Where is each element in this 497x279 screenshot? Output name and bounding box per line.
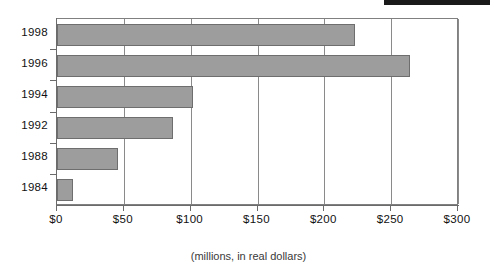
- y-tick-mark: [50, 174, 56, 175]
- gridline-150: [258, 19, 259, 204]
- x-tick-mark: [257, 205, 258, 211]
- bar-row: [57, 179, 459, 201]
- bar-row: [57, 148, 459, 170]
- x-tick-label-50: $50: [93, 213, 153, 225]
- y-tick-mark: [50, 143, 56, 144]
- bar-1992[interactable]: [57, 117, 173, 139]
- gridline-200: [324, 19, 325, 204]
- y-tick-label-1988: 1988: [4, 150, 48, 162]
- bar-row: [57, 86, 459, 108]
- x-tick-mark: [56, 205, 57, 211]
- horizontal-bar-chart: 199819961994199219881984 (millions, in r…: [0, 0, 497, 279]
- y-axis-tick-labels: 199819961994199219881984: [0, 0, 48, 279]
- x-tick-mark: [190, 205, 191, 211]
- bar-row: [57, 55, 459, 77]
- x-tick-label-100: $100: [160, 213, 220, 225]
- gridline-250: [391, 19, 392, 204]
- x-axis-line: [56, 205, 459, 206]
- x-tick-label-300: $300: [427, 213, 487, 225]
- bar-1988[interactable]: [57, 148, 118, 170]
- x-axis-caption: (millions, in real dollars): [0, 250, 497, 262]
- y-tick-label-1992: 1992: [4, 119, 48, 131]
- x-tick-mark: [457, 205, 458, 211]
- y-tick-label-1998: 1998: [4, 26, 48, 38]
- y-tick-label-1984: 1984: [4, 181, 48, 193]
- y-tick-mark: [50, 49, 56, 50]
- x-tick-label-150: $150: [227, 213, 287, 225]
- y-tick-mark: [50, 112, 56, 113]
- y-tick-label-1996: 1996: [4, 57, 48, 69]
- plot-area: [56, 18, 458, 205]
- y-tick-mark: [50, 80, 56, 81]
- bar-1996[interactable]: [57, 55, 410, 77]
- bar-row: [57, 117, 459, 139]
- x-tick-label-250: $250: [360, 213, 420, 225]
- x-tick-label-200: $200: [293, 213, 353, 225]
- gridline-50: [124, 19, 125, 204]
- x-tick-mark: [123, 205, 124, 211]
- bar-1994[interactable]: [57, 86, 193, 108]
- bar-1998[interactable]: [57, 24, 355, 46]
- bar-1984[interactable]: [57, 179, 73, 201]
- x-tick-label-0: $0: [26, 213, 86, 225]
- gridline-100: [191, 19, 192, 204]
- x-tick-mark: [323, 205, 324, 211]
- y-tick-label-1994: 1994: [4, 88, 48, 100]
- gridline-300: [458, 19, 459, 204]
- bar-row: [57, 24, 459, 46]
- y-axis-line: [56, 18, 57, 206]
- x-tick-mark: [390, 205, 391, 211]
